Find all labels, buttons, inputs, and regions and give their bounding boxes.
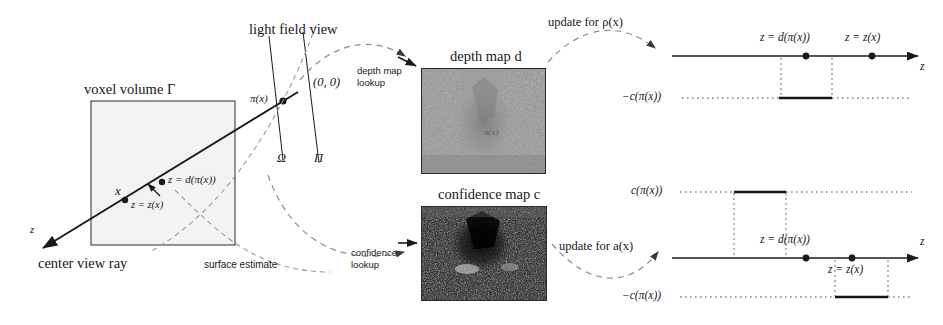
depth-map-inset-label: π(x) xyxy=(484,128,499,137)
projection-pi-x-label: π(x) xyxy=(250,93,268,104)
rho-plot-depth-dot xyxy=(803,53,810,60)
depth-map-lookup-line-2: lookup xyxy=(357,77,402,89)
origin-coordinate-label: (0, 0) xyxy=(313,76,340,89)
a-plot-voxel-tick-label: z = z(x) xyxy=(828,264,863,276)
ray-voxel-point-label: z = z(x) xyxy=(131,200,163,211)
point-x-label: x xyxy=(115,184,121,197)
confidence-map-lookup-label: confidence lookup xyxy=(351,247,397,271)
center-view-ray-label: center view ray xyxy=(38,256,127,271)
rho-plot-negative-level-label: −c(π(x)) xyxy=(622,91,661,103)
confidence-map-lookup-line-2: lookup xyxy=(351,259,397,271)
rho-plot-z-axis-label: z xyxy=(920,61,924,73)
left-z-axis-label: z xyxy=(30,224,34,235)
a-plot-negative-level-label: −c(π(x)) xyxy=(622,290,661,302)
ray-point-x xyxy=(122,197,128,203)
surface-estimate-label: surface estimate xyxy=(204,260,277,270)
a-plot-depth-dot xyxy=(803,255,810,262)
omega-plane-line xyxy=(269,36,283,160)
depth-map-lookup-line-1: depth map xyxy=(357,65,402,77)
figure-canvas: π(x) voxel volume Γ light field view cen… xyxy=(0,0,943,325)
light-field-view-label: light field view xyxy=(249,22,338,37)
flow-depth-to-rho-plot xyxy=(548,30,655,62)
confidence-map-image xyxy=(421,206,547,301)
a-plot-depth-tick-label: z = d(π(x)) xyxy=(760,234,810,246)
depth-map-texture xyxy=(422,69,545,173)
a-plot-positive-level-label: c(π(x)) xyxy=(631,185,662,197)
a-update-label: update for a(x) xyxy=(559,240,633,253)
voxel-volume-label: voxel volume Γ xyxy=(84,82,175,97)
a-plot-voxel-dot xyxy=(849,255,856,262)
rho-update-label: update for ρ(x) xyxy=(548,16,623,29)
depth-map-image: π(x) xyxy=(421,68,546,174)
confidence-map-title: confidence map c xyxy=(438,187,540,202)
omega-label: Ω xyxy=(277,152,286,165)
ray-point-depth xyxy=(159,179,165,185)
rho-plot-depth-tick-label: z = d(π(x)) xyxy=(760,32,810,44)
confidence-map-lookup-line-1: confidence xyxy=(351,247,397,259)
rho-plot-voxel-dot xyxy=(869,53,876,60)
a-plot-z-axis-label: z xyxy=(920,236,924,248)
ray-depth-point-label: z = d(π(x)) xyxy=(168,174,216,185)
confidence-map-texture xyxy=(422,207,546,300)
pi-plane-label: Π xyxy=(314,152,323,165)
rho-plot-group xyxy=(672,53,918,98)
flow-to-confidence-map xyxy=(268,175,404,256)
depth-map-title: depth map d xyxy=(450,49,522,64)
depth-map-lookup-label: depth map lookup xyxy=(357,65,402,89)
rho-plot-voxel-tick-label: z = z(x) xyxy=(845,32,880,44)
